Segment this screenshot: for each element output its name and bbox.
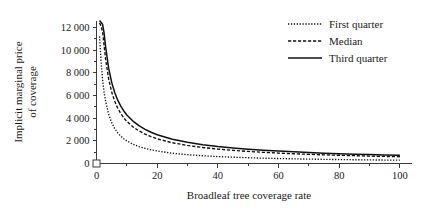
y-axis-title-line2: of coverage — [26, 66, 38, 118]
y-tick-label: 0 — [84, 158, 89, 169]
y-axis-tick-labels: 02 0004 0006 0008 00010 00012 000 — [61, 22, 90, 169]
y-tick-label: 2 000 — [66, 135, 90, 146]
y-tick-label: 4 000 — [66, 113, 90, 124]
y-axis-title-line1: Implicit marginal price — [12, 41, 24, 142]
legend-label: Median — [329, 35, 363, 47]
x-axis-tick-labels: 020406080100 — [94, 170, 408, 181]
chart-legend: First quarterMedianThird quarter — [288, 18, 388, 64]
y-tick-label: 8 000 — [66, 67, 90, 78]
x-axis-title: Broadleaf tree coverage rate — [187, 189, 311, 201]
y-axis-ticks — [93, 27, 97, 152]
x-axis-ticks — [127, 164, 400, 168]
legend-label: First quarter — [329, 18, 383, 30]
x-tick-label: 20 — [152, 170, 163, 181]
x-tick-label: 100 — [392, 170, 408, 181]
chart-figure: 02 0004 0006 0008 00010 00012 000 020406… — [0, 0, 432, 211]
axes — [93, 21, 412, 168]
x-tick-label: 60 — [273, 170, 284, 181]
y-tick-label: 10 000 — [61, 45, 90, 56]
chart-plot-area: 02 0004 0006 0008 00010 00012 000 020406… — [0, 0, 432, 211]
legend-label: Third quarter — [329, 52, 388, 64]
origin-marker — [93, 160, 100, 167]
x-tick-label: 40 — [213, 170, 224, 181]
y-tick-label: 6 000 — [66, 90, 90, 101]
y-tick-label: 12 000 — [61, 22, 90, 33]
x-tick-label: 80 — [334, 170, 345, 181]
x-tick-label: 0 — [94, 170, 99, 181]
